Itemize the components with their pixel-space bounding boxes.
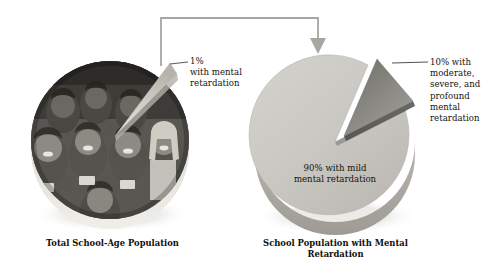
right-pie-major-slice-label: 90% with mild mental retardation [270,163,400,186]
figure-root: 1% with mental retardation 10% with mode… [0,0,490,277]
figure-graphics [0,0,490,277]
left-label-leader-line [170,62,188,64]
left-pie-slice-label: 1% with mental retardation [190,56,242,90]
right-pie-slice-label: 10% with moderate, severe, and profound … [430,57,480,124]
right-pie-caption: School Population with Mental Retardatio… [248,238,423,260]
connector-arrowhead-icon [310,38,326,54]
right-label-leader-line [392,62,428,63]
left-pie-caption: Total School-Age Population [40,238,185,249]
